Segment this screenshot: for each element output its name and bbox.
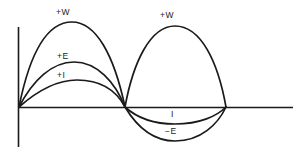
label-power-second-half: +W — [160, 11, 174, 20]
label-power-first-half: +W — [56, 8, 70, 17]
power-curve-w — [19, 22, 226, 107]
label-current-first-half: +I — [57, 71, 66, 80]
label-voltage-second-half: −E — [165, 127, 177, 136]
label-current-second-half: I — [171, 110, 174, 119]
waveform-figure: +W +E +I +W I −E — [0, 0, 306, 155]
current-curve-i — [19, 80, 226, 124]
label-voltage-first-half: +E — [57, 52, 69, 61]
waveform-plot — [0, 0, 306, 155]
